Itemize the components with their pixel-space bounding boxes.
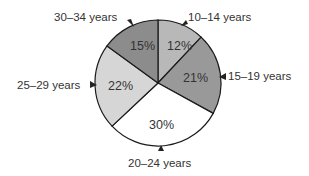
category-label-25-29: 25–29 years xyxy=(17,79,81,91)
slice-value-30-34: 15% xyxy=(130,39,155,53)
slice-value-20-24: 30% xyxy=(149,118,174,132)
category-label-30-34: 30–34 years xyxy=(54,11,118,23)
category-label-10-14: 10–14 years xyxy=(188,11,252,23)
category-label-15-19: 15–19 years xyxy=(228,70,292,82)
pie-chart: 12% 21% 30% 22% 15% 10–14 years 15–19 ye… xyxy=(0,0,309,176)
slice-value-15-19: 21% xyxy=(183,71,208,85)
slice-value-25-29: 22% xyxy=(108,79,133,93)
category-label-20-24: 20–24 years xyxy=(128,157,192,169)
slice-value-10-14: 12% xyxy=(167,39,192,53)
